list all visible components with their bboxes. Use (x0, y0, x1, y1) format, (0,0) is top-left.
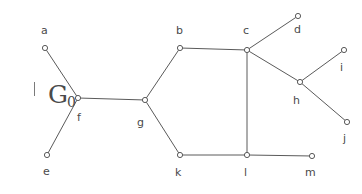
graph-vertex-g[interactable] (142, 97, 147, 102)
graph-vertex-b[interactable] (177, 45, 182, 50)
vertex-label-c: c (243, 25, 249, 36)
graph-vertex-e[interactable] (44, 152, 49, 157)
edge-layer (45, 16, 347, 156)
vertex-label-e: e (43, 166, 50, 177)
graph-vertex-f[interactable] (75, 95, 80, 100)
graph-vertex-a[interactable] (42, 45, 47, 50)
graph-vertex-l[interactable] (244, 152, 249, 157)
graph-edge-h-i (300, 50, 344, 82)
graph-vertex-i[interactable] (341, 47, 346, 52)
graph-edge-f-g (78, 98, 145, 100)
graph-edge-c-h (247, 50, 300, 82)
graph-vertex-k[interactable] (177, 152, 182, 157)
vertex-label-g: g (137, 117, 144, 128)
graph-vertex-j[interactable] (344, 119, 349, 124)
graph-edge-h-j (300, 82, 347, 122)
vertex-layer (42, 13, 349, 158)
caption-subscript: 0 (67, 94, 76, 110)
graph-vertex-h[interactable] (297, 79, 302, 84)
graph-vertex-d[interactable] (295, 13, 300, 18)
graph-edge-g-k (145, 100, 180, 155)
vertex-label-d: d (294, 24, 301, 35)
graph-figure: G0 abcdefghijklm (0, 0, 362, 194)
graph-caption: G0 (48, 82, 76, 109)
caption-tick-mark (34, 82, 35, 96)
vertex-label-a: a (41, 25, 48, 36)
graph-edge-b-c (180, 48, 247, 50)
graph-vertex-m[interactable] (309, 153, 314, 158)
vertex-label-m: m (305, 167, 316, 178)
graph-edge-g-b (145, 48, 180, 100)
vertex-label-j: j (343, 133, 346, 144)
graph-edge-c-d (247, 16, 298, 50)
vertex-label-i: i (340, 62, 343, 73)
caption-main-letter: G (48, 80, 68, 109)
vertex-label-l: l (244, 167, 247, 178)
graph-vertex-c[interactable] (244, 47, 249, 52)
vertex-label-b: b (176, 25, 183, 36)
graph-edge-l-m (247, 155, 312, 156)
vertex-label-f: f (77, 112, 81, 123)
vertex-label-k: k (175, 167, 181, 178)
vertex-label-h: h (293, 95, 300, 106)
